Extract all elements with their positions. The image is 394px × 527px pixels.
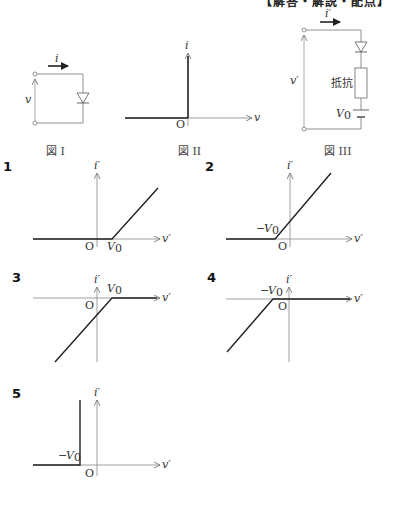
svg-text:0: 0 bbox=[115, 242, 122, 255]
figure-3-caption: 図 III bbox=[324, 145, 352, 158]
voltage-label: v bbox=[25, 93, 32, 106]
choice-1-graph: 1 i′ v′ O V 0 bbox=[3, 159, 171, 255]
choice-5-graph: 5 i′ v′ O − V 0 bbox=[12, 386, 171, 480]
diode-icon bbox=[355, 42, 367, 52]
origin-label: O bbox=[85, 240, 94, 253]
curve bbox=[33, 188, 158, 239]
y-axis-label: i′ bbox=[287, 159, 294, 172]
origin-label: O bbox=[176, 118, 185, 131]
origin-label: O bbox=[278, 300, 287, 313]
x-axis-label: v′ bbox=[162, 291, 171, 304]
y-axis-label: i′ bbox=[94, 159, 101, 172]
resistor-label: 抵抗 bbox=[331, 76, 353, 90]
figure-3-circuit: i′ v′ 抵抗 V 0 図 III bbox=[290, 7, 369, 158]
svg-text:0: 0 bbox=[276, 286, 283, 299]
terminal-top-icon bbox=[302, 28, 306, 32]
x-axis-label: v′ bbox=[354, 232, 363, 245]
choice-4-graph: 4 i′ v′ O − V 0 bbox=[207, 270, 363, 362]
resistor-icon bbox=[355, 68, 367, 98]
choice-number: 5 bbox=[12, 386, 21, 401]
svg-text:0: 0 bbox=[74, 451, 81, 464]
figure-canvas: i v 図 I i v O 図 II i′ v′ 抵抗 bbox=[0, 0, 394, 527]
diode-icon bbox=[77, 93, 89, 103]
terminal-top-icon bbox=[33, 72, 37, 76]
current-label: i′ bbox=[325, 7, 332, 20]
figure-2-caption: 図 II bbox=[178, 145, 201, 158]
figure-1-circuit: i v 図 I bbox=[25, 52, 89, 158]
x-axis-label: v′ bbox=[354, 292, 363, 305]
battery-subscript: 0 bbox=[344, 109, 351, 122]
y-axis-label: i bbox=[185, 39, 189, 52]
figure-1-caption: 図 I bbox=[46, 145, 65, 158]
figure-2-graph: i v O 図 II bbox=[125, 39, 261, 158]
terminal-bottom-icon bbox=[302, 127, 306, 131]
current-label: i bbox=[55, 52, 59, 65]
x-axis-label: v′ bbox=[162, 232, 171, 245]
curve bbox=[227, 299, 350, 352]
choice-2-graph: 2 i′ v′ O − V 0 bbox=[205, 159, 363, 253]
curve bbox=[55, 298, 157, 362]
origin-label: O bbox=[85, 467, 94, 480]
choice-number: 4 bbox=[207, 270, 216, 285]
x-axis-label: v′ bbox=[162, 458, 171, 471]
y-axis-label: i′ bbox=[94, 386, 101, 399]
origin-label: O bbox=[278, 240, 287, 253]
choice-number: 1 bbox=[3, 159, 12, 174]
choice-3-graph: 3 i′ v′ O V 0 bbox=[12, 270, 171, 362]
svg-text:0: 0 bbox=[115, 284, 122, 297]
svg-text:0: 0 bbox=[272, 224, 279, 237]
y-axis-label: i′ bbox=[286, 273, 293, 286]
voltage-label: v′ bbox=[290, 74, 299, 87]
choice-number: 3 bbox=[12, 270, 21, 285]
origin-label: O bbox=[85, 299, 94, 312]
wire bbox=[37, 74, 83, 123]
x-axis-label: v bbox=[254, 111, 261, 124]
y-axis-label: i′ bbox=[94, 273, 101, 286]
terminal-bottom-icon bbox=[33, 121, 37, 125]
choice-number: 2 bbox=[205, 159, 214, 174]
